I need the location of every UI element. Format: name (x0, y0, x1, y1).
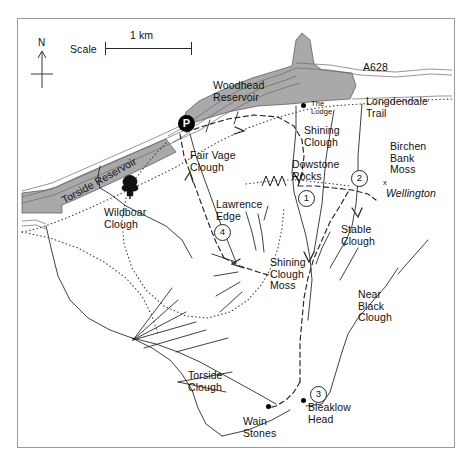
label-the-lodge: The Lodge (311, 100, 332, 117)
scale-distance-label: 1 km (130, 30, 153, 42)
the-lodge-dot (301, 103, 306, 108)
label-stable-clough: Stable Clough (341, 224, 375, 247)
label-dowstone-rocks: Dowstone Rocks (292, 159, 340, 182)
label-birchen-bank-moss: Birchen Bank Moss (390, 141, 426, 176)
map-root: N Scale 1 km P x 1 2 3 4 Woodhead Reserv… (0, 0, 475, 466)
label-woodhead-reservoir: Woodhead Reservoir (213, 80, 264, 103)
wain-stones-dot (266, 404, 271, 409)
label-torside-clough: Torside Clough (188, 370, 223, 393)
label-fair-vage-clough: Fair Vage Clough (190, 150, 236, 173)
label-wain-stones: Wain Stones (243, 416, 276, 439)
marker-4[interactable]: 4 (214, 224, 231, 241)
label-wildboar-clough: Wildboar Clough (104, 207, 146, 230)
scale-bar-line (105, 48, 192, 49)
marker-2[interactable]: 2 (351, 170, 368, 187)
parking-marker[interactable]: P (178, 115, 195, 132)
label-longdendale-trail: Longdendale Trail (366, 96, 428, 119)
label-a628-road: A628 (363, 62, 388, 74)
label-lawrence-edge: Lawrence Edge (216, 199, 262, 222)
label-bleaklow-head: Bleaklow Head (308, 402, 351, 425)
scale-bar (105, 41, 193, 56)
bleaklow-head-dot (301, 398, 306, 403)
label-shining-clough-moss: Shining Clough Moss (270, 257, 306, 292)
marker-1[interactable]: 1 (298, 190, 315, 207)
label-shining-clough: Shining Clough (304, 125, 340, 148)
scale-tick-end (191, 42, 192, 55)
scale-label: Scale (70, 44, 97, 56)
label-near-black-clough: Near Black Clough (358, 289, 392, 324)
north-arrow-label: N (38, 37, 45, 49)
label-wellington-crash: Wellington (386, 188, 436, 200)
